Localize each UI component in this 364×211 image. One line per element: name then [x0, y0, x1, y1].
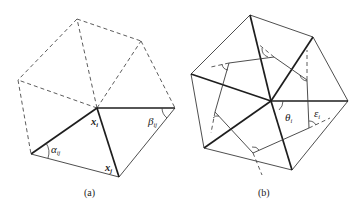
label-beta-ij: βij — [147, 115, 157, 128]
panel-a-one-ring-diagram: xi xj αij βij (a) — [18, 19, 175, 199]
corner-angle-arc — [213, 116, 219, 118]
label-xi: xi — [90, 116, 98, 128]
panel-b-voronoi-diagram: θi εi (b) — [191, 15, 348, 199]
corner-angle-arc — [262, 48, 268, 57]
caption-b: (b) — [258, 187, 270, 199]
label-epsilon-i: εi — [314, 107, 320, 120]
alpha-angle-arc — [46, 143, 49, 158]
corner-angle-arc — [252, 147, 259, 150]
mesh-figure: xi xj αij βij (a) θi εi — [0, 0, 364, 211]
label-alpha-ij: αij — [51, 143, 61, 156]
epsilon-angle-arc — [309, 121, 316, 125]
caption-a: (a) — [84, 187, 95, 199]
beta-angle-arc — [162, 108, 167, 118]
label-theta-i: θi — [285, 111, 292, 124]
label-xj: xj — [104, 162, 112, 174]
theta-angle-arc — [279, 101, 283, 110]
